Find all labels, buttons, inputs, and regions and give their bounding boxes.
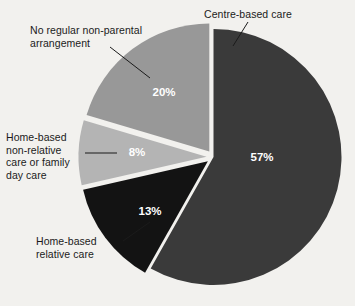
slice-value-no-regular: 20% xyxy=(152,86,175,98)
pie-chart: 57% 20% 8% 13% Centre-based care No regu… xyxy=(0,0,355,306)
callout-label-no-regular: No regular non-parental arrangement xyxy=(30,24,142,49)
callout-label-centre-based: Centre-based care xyxy=(204,8,292,21)
slice-value-home-non-relative: 8% xyxy=(129,146,146,158)
slice-value-home-relative: 13% xyxy=(138,205,161,217)
slice-value-centre-based: 57% xyxy=(250,151,273,163)
callout-label-home-non-relative: Home-based non-relative care or family d… xyxy=(6,131,70,181)
callout-label-home-relative: Home-based relative care xyxy=(36,235,97,260)
